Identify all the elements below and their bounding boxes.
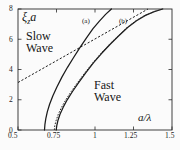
xtick-label-1-25: 1.25 xyxy=(124,132,137,140)
ytick-label-6: 6 xyxy=(9,36,13,44)
xtick-label-0-5: 0.5 xyxy=(8,132,17,140)
xtick-label-1-5: 1.5 xyxy=(165,132,174,140)
y-axis-label-tail: a xyxy=(30,10,36,24)
dispersion-plot-figure: 0 2 4 6 8 0.5 0.75 1 1.25 1.5 ξza a/λ Sl… xyxy=(0,0,180,150)
x-axis-label: a/λ xyxy=(138,112,151,123)
curve-label-a: (a) xyxy=(82,18,90,25)
ytick-label-4: 4 xyxy=(9,66,13,74)
fast-wave-region-label: Fast Wave xyxy=(94,79,121,103)
slow-wave-region-label: Slow Wave xyxy=(26,30,53,54)
slow-wave-line-2: Wave xyxy=(26,42,53,54)
ytick-label-8: 8 xyxy=(9,5,13,13)
xtick-label-1: 1 xyxy=(93,132,97,140)
xtick-label-0-75: 0.75 xyxy=(47,132,60,140)
fast-wave-line-2: Wave xyxy=(94,91,121,103)
curve-a xyxy=(45,9,112,130)
curve-label-b: (b) xyxy=(119,18,127,25)
y-axis-label: ξza xyxy=(22,11,36,26)
ytick-label-2: 2 xyxy=(9,96,13,104)
